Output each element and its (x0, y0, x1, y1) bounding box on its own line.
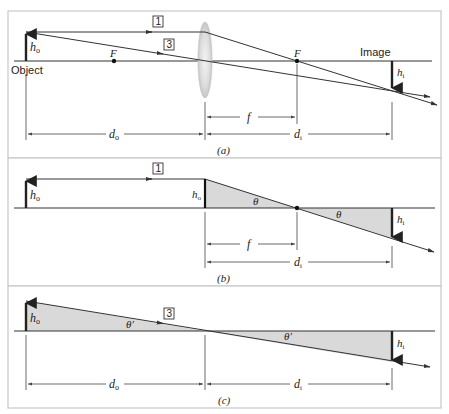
caption-c: (c) (218, 394, 231, 407)
theta-left: θ (253, 195, 259, 207)
panel-c: 3 ho θ′ θ′ hi do di (c) (8, 286, 441, 408)
ray-1-number: 1 (156, 16, 162, 27)
ray-3-arrow-icon (160, 323, 163, 324)
panel-b: 1 ho ho θ θ hi f di (b) (8, 158, 441, 286)
focal-point-left (112, 59, 116, 63)
ray-1-number: 1 (156, 163, 162, 174)
theta-prime-left: θ′ (126, 318, 134, 330)
ray-3-arrow-icon (160, 54, 163, 55)
ray-3-number: 3 (167, 39, 173, 50)
ray-3-number: 3 (167, 308, 173, 319)
object-label: Object (11, 64, 43, 76)
image-label: Image (360, 46, 391, 58)
caption-b: (b) (217, 272, 230, 285)
panel-a-frame (8, 11, 441, 158)
thin-lens-diagram: ho Object F F Image hi 1 3 f do di (a) (0, 0, 449, 414)
theta-prime-right: θ′ (284, 330, 292, 342)
panel-a: ho Object F F Image hi 1 3 f do di (a) (8, 11, 441, 158)
theta-right: θ (336, 208, 342, 220)
focal-label-right: F (293, 47, 301, 59)
caption-a: (a) (217, 144, 230, 157)
focal-point (295, 206, 299, 210)
focal-label-left: F (109, 47, 117, 59)
focal-point-right (295, 59, 299, 63)
